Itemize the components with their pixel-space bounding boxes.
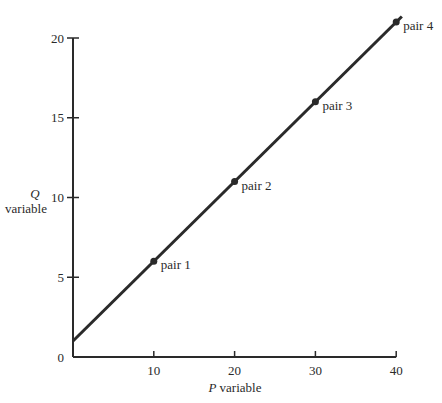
data-point [393, 19, 400, 26]
axes: 0510152010203040 [51, 31, 403, 379]
data-line [73, 16, 402, 341]
point-label: pair 1 [161, 257, 191, 272]
data-point [150, 258, 157, 265]
x-tick-label: 20 [228, 363, 241, 378]
y-axis-label-text: variable [5, 201, 47, 216]
y-tick-label: 15 [51, 110, 64, 125]
point-label: pair 4 [403, 18, 433, 33]
y-tick-label: 0 [58, 350, 65, 365]
trend-line [73, 16, 402, 341]
x-tick-label: 40 [390, 363, 403, 378]
point-label: pair 2 [242, 178, 272, 193]
point-label: pair 3 [322, 98, 352, 113]
chart: 0510152010203040 pair 1pair 2pair 3pair … [0, 0, 442, 403]
y-tick-label: 5 [58, 270, 65, 285]
y-tick-label: 10 [51, 190, 64, 205]
data-point [312, 98, 319, 105]
y-axis-label-symbol: Q [30, 186, 40, 201]
y-tick-label: 20 [51, 31, 64, 46]
data-points: pair 1pair 2pair 3pair 4 [150, 18, 433, 272]
x-tick-label: 10 [147, 363, 160, 378]
data-point [231, 178, 238, 185]
axis-labels: P variableQvariable [5, 186, 262, 395]
x-axis-label: P variable [208, 380, 262, 395]
x-tick-label: 30 [309, 363, 322, 378]
